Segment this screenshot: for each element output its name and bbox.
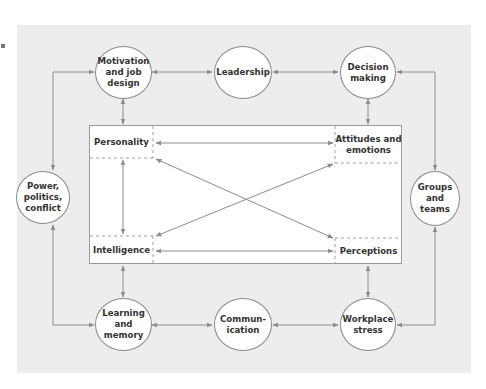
decision-label: Decision making	[347, 62, 388, 84]
leadership-label: Leadership	[216, 67, 270, 78]
attitudes-cell: Attitudes and emotions	[335, 126, 402, 163]
diagram: Personality Attitudes and emotions Intel…	[0, 0, 486, 389]
groups-label: Groups and teams	[418, 182, 453, 215]
arrow-motivation-power	[53, 72, 94, 170]
learning-label: Learning and memory	[102, 308, 145, 341]
arrow-decision-groups	[397, 72, 435, 170]
perceptions-label: Perceptions	[340, 246, 398, 257]
node-learning-memory: Learning and memory	[95, 298, 152, 351]
node-leadership: Leadership	[214, 46, 272, 99]
arrow-power-learning	[53, 225, 94, 325]
stress-label: Workplace stress	[343, 314, 394, 336]
node-communication: Commun- ication	[214, 298, 272, 351]
arrow-groups-stress	[397, 227, 435, 325]
node-workplace-stress: Workplace stress	[340, 298, 396, 351]
node-motivation: Motivation and job design	[95, 46, 152, 99]
communication-label: Commun- ication	[220, 314, 266, 336]
node-groups-teams: Groups and teams	[410, 171, 460, 226]
motivation-label: Motivation and job design	[98, 56, 150, 89]
node-decision-making: Decision making	[340, 46, 396, 99]
intelligence-cell: Intelligence	[90, 236, 153, 264]
personality-cell: Personality	[90, 126, 153, 158]
attitudes-label: Attitudes and emotions	[335, 134, 401, 156]
intelligence-label: Intelligence	[93, 245, 150, 256]
perceptions-cell: Perceptions	[335, 238, 402, 264]
arrow-intelligence-attitudes	[156, 164, 333, 236]
node-power-politics-conflict: Power, politics, conflict	[16, 171, 70, 224]
personality-label: Personality	[94, 137, 149, 148]
arrow-personality-perceptions	[156, 159, 333, 238]
power-label: Power, politics, conflict	[24, 181, 62, 214]
